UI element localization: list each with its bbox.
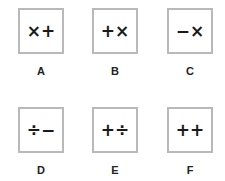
option-e[interactable]: +÷ E [92,107,138,153]
option-box[interactable]: +÷ [92,107,138,153]
option-label: F [167,164,213,176]
symbol-pair: +× [101,23,130,40]
symbol-pair: ++ [176,122,205,139]
option-box[interactable]: +× [92,8,138,54]
option-box[interactable]: −× [167,8,213,54]
symbol-pair: ÷− [27,122,56,139]
option-label: A [18,65,64,77]
symbol-pair: −× [176,23,205,40]
option-f[interactable]: ++ F [167,107,213,153]
option-box[interactable]: ×+ [18,8,64,54]
option-b[interactable]: +× B [92,8,138,54]
option-label: C [167,65,213,77]
option-label: E [92,164,138,176]
option-a[interactable]: ×+ A [18,8,64,54]
option-label: D [18,164,64,176]
symbol-pair: ×+ [27,23,56,40]
option-box[interactable]: ++ [167,107,213,153]
option-box[interactable]: ÷− [18,107,64,153]
option-label: B [92,65,138,77]
option-d[interactable]: ÷− D [18,107,64,153]
symbol-pair: +÷ [101,122,130,139]
option-c[interactable]: −× C [167,8,213,54]
